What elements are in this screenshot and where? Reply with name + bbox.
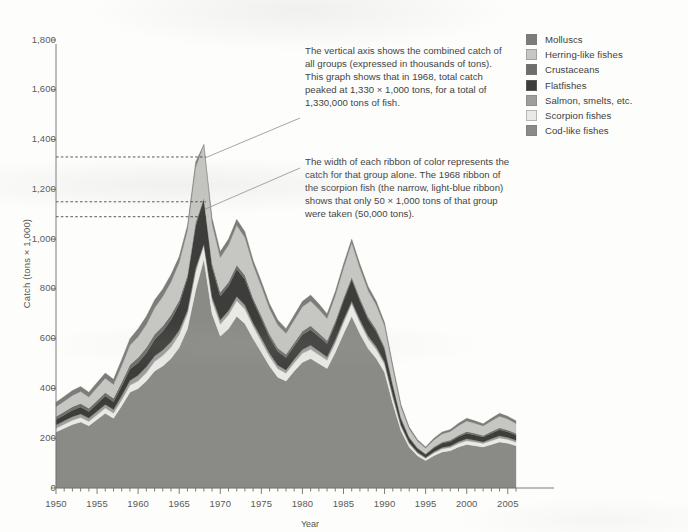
legend-swatch-icon [526, 49, 537, 60]
legend-item-label: Flatfishes [545, 80, 587, 91]
legend-item-label: Cod-like fishes [545, 125, 609, 136]
x-axis-tick-label: 1965 [159, 498, 199, 509]
legend-item-label: Crustaceans [545, 64, 599, 75]
legend-item-cod-like-fishes: Cod-like fishes [526, 123, 632, 138]
y-axis-tick-label: 800 [10, 282, 56, 293]
legend-swatch-icon [526, 80, 537, 91]
legend-item-crustaceans: Crustaceans [526, 62, 632, 77]
legend-swatch-icon [526, 34, 537, 45]
legend-item-flatfishes: Flatfishes [526, 78, 632, 93]
y-axis-tick-label: 1,000 [10, 233, 56, 244]
reference-lines [56, 157, 206, 217]
x-axis-tick-label: 1985 [324, 498, 364, 509]
y-axis-tick-label: 0 [10, 482, 56, 493]
y-axis-tick-label: 200 [10, 432, 56, 443]
legend-swatch-icon [526, 125, 537, 136]
legend-item-herring-like-fishes: Herring-like fishes [526, 47, 632, 62]
legend-item-molluscs: Molluscs [526, 32, 632, 47]
x-axis-title: Year [0, 519, 620, 529]
legend-item-label: Scorpion fishes [545, 110, 611, 121]
x-axis-tick-label: 1990 [365, 498, 405, 509]
annotation-peak-catch: The vertical axis shows the combined cat… [305, 44, 511, 109]
y-axis-tick-label: 1,200 [10, 183, 56, 194]
legend-item-label: Herring-like fishes [545, 49, 623, 60]
chart-canvas: 1,8001,6001,4001,2001,0008006004002000 C… [0, 0, 688, 532]
legend-item-scorpion-fishes: Scorpion fishes [526, 108, 632, 123]
annotation-leader-lines [205, 118, 300, 209]
legend-item-label: Salmon, smelts, etc. [545, 95, 632, 106]
x-axis-tick-label: 1955 [77, 498, 117, 509]
y-axis-title: Catch (tons × 1,000) [21, 184, 32, 344]
leader-line [205, 118, 300, 158]
x-axis-tick-label: 1960 [118, 498, 158, 509]
x-axis-tick-label: 1980 [282, 498, 322, 509]
x-axis-tick-label: 2000 [447, 498, 487, 509]
legend-swatch-icon [526, 95, 537, 106]
leader-line [205, 168, 300, 209]
y-axis-tick-label: 400 [10, 382, 56, 393]
chart-legend: MolluscsHerring-like fishesCrustaceansFl… [526, 32, 632, 138]
legend-item-label: Molluscs [545, 34, 583, 45]
x-axis-tick-label: 1970 [200, 498, 240, 509]
y-axis-tick-label: 1,600 [10, 83, 56, 94]
x-axis-tick-label: 1950 [36, 498, 76, 509]
legend-swatch-icon [526, 64, 537, 75]
legend-swatch-icon [526, 110, 537, 121]
x-axis-tick-label: 1995 [406, 498, 446, 509]
x-axis-tick-labels: 1950195519601965197019751980198519901995… [0, 498, 688, 518]
y-axis-tick-label: 600 [10, 332, 56, 343]
y-axis-tick-label: 1,800 [10, 34, 56, 45]
legend-item-salmon-smelts-etc: Salmon, smelts, etc. [526, 93, 632, 108]
y-axis-tick-label: 1,400 [10, 133, 56, 144]
x-axis-tick-label: 1975 [241, 498, 281, 509]
annotation-ribbon-width: The width of each ribbon of color repres… [305, 155, 511, 220]
x-axis-tick-label: 2005 [488, 498, 528, 509]
